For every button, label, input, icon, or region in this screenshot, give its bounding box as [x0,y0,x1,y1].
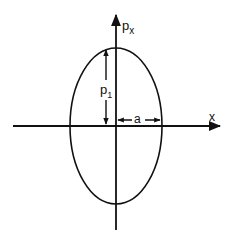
x-axis-label: x [209,110,215,124]
px-axis-label: px [122,18,134,36]
a-label: a [134,112,141,126]
phase-space-diagram: px x p1 a [0,0,232,240]
